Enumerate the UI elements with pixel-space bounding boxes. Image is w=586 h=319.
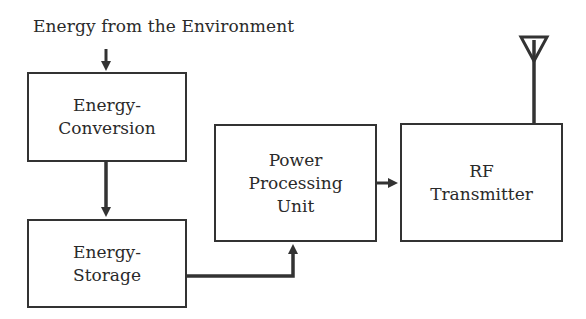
block-label-line: RF xyxy=(469,160,494,183)
block-label-line: Power xyxy=(269,149,323,172)
block-label-line: Unit xyxy=(277,195,315,218)
block-label-line: Processing xyxy=(248,172,342,195)
block-label-line: Energy- xyxy=(73,241,141,264)
block-label-line: Conversion xyxy=(58,117,155,140)
block-power-processing-unit: Power Processing Unit xyxy=(214,124,377,242)
block-label-line: Transmitter xyxy=(430,183,533,206)
block-label-line: Energy- xyxy=(73,94,141,117)
block-energy-conversion: Energy- Conversion xyxy=(27,72,187,162)
antenna-icon xyxy=(521,37,547,123)
storage-to-ppu-arrow xyxy=(186,249,293,276)
block-rf-transmitter: RF Transmitter xyxy=(400,123,563,242)
block-label-line: Storage xyxy=(73,264,141,287)
block-energy-storage: Energy- Storage xyxy=(27,219,187,308)
